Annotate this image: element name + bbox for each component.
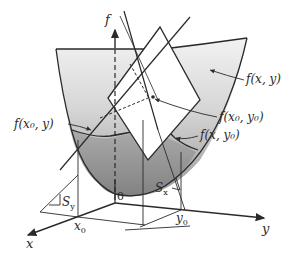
point-x0-y0 — [151, 95, 155, 99]
label-surface: f(x, y) — [245, 72, 281, 86]
label-point: f(x₀, y₀) — [218, 110, 264, 124]
x0-tick-label: x0 — [74, 219, 86, 235]
diagram-canvas: f x y 0 Sy — [0, 0, 306, 262]
y0-tick-label: y0 — [175, 211, 188, 227]
label-curve-y0: f(x, y₀) — [199, 128, 240, 142]
slope-triangle-sy: Sy — [40, 175, 78, 212]
origin-label: 0 — [117, 190, 124, 203]
label-curve-x0: f(x₀, y) — [13, 117, 54, 131]
f-axis-label: f — [104, 12, 112, 27]
svg-text:Sy: Sy — [62, 195, 75, 211]
y-axis — [115, 203, 264, 218]
y-axis-label: y — [261, 221, 270, 236]
x-axis-label: x — [26, 236, 34, 251]
